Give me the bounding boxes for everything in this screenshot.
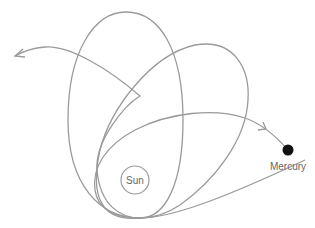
orbit-loop-2 [96, 44, 248, 218]
mercury-label: Mercury [270, 161, 306, 172]
mercury-dot [283, 145, 294, 156]
orbit-path-exit [15, 47, 140, 218]
orbit-diagram: Sun Mercury [0, 0, 315, 228]
sun-label: Sun [126, 175, 144, 186]
